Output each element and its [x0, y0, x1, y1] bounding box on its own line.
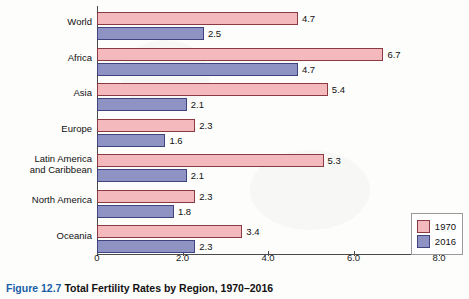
legend-label-2016: 2016	[435, 236, 456, 247]
figure-number: Figure 12.7	[6, 282, 61, 294]
legend-item-1970: 1970	[417, 220, 456, 233]
bar-value-label: 2.3	[199, 190, 212, 203]
bar-value-label: 5.4	[332, 83, 345, 96]
legend-item-2016: 2016	[417, 235, 456, 248]
plot-area: 4.72.56.74.75.42.12.31.65.32.12.31.83.42…	[97, 6, 439, 255]
bar-value-label: 1.8	[178, 205, 191, 218]
bar-group: 4.72.5	[97, 6, 439, 42]
category-label: North America	[6, 194, 92, 205]
bar-1970	[97, 154, 324, 167]
bar-value-label: 2.3	[199, 119, 212, 132]
legend-label-1970: 1970	[435, 221, 456, 232]
bar-group: 2.31.8	[97, 184, 439, 220]
figure-title: Total Fertility Rates by Region, 1970–20…	[64, 282, 273, 294]
bar-1970	[97, 83, 328, 96]
category-label: Europe	[6, 123, 92, 134]
bar-1970	[97, 48, 383, 61]
bar-value-label: 4.7	[302, 12, 315, 25]
x-tick-label: 0	[94, 252, 99, 263]
figure-caption: Figure 12.7 Total Fertility Rates by Reg…	[6, 282, 273, 294]
category-label: Oceania	[6, 230, 92, 241]
bar-value-label: 1.6	[169, 134, 182, 147]
category-label: World	[6, 16, 92, 27]
category-label: Africa	[6, 52, 92, 63]
bar-value-label: 5.3	[328, 154, 341, 167]
bar-group: 6.74.7	[97, 42, 439, 78]
x-tick-label: 2.0	[176, 252, 189, 263]
bar-1970	[97, 225, 242, 238]
bar-2016	[97, 134, 165, 147]
category-label: Asia	[6, 87, 92, 98]
bar-group: 3.42.3	[97, 219, 439, 255]
x-tick-label: 6.0	[347, 252, 360, 263]
bar-2016	[97, 98, 187, 111]
bar-1970	[97, 190, 195, 203]
legend-swatch-1970	[417, 220, 430, 233]
bar-2016	[97, 63, 298, 76]
figure-container: WorldAfricaAsiaEuropeLatin Americaand Ca…	[0, 0, 469, 299]
bar-value-label: 6.7	[387, 48, 400, 61]
bar-2016	[97, 27, 204, 40]
bar-group: 2.31.6	[97, 113, 439, 149]
legend-swatch-2016	[417, 235, 430, 248]
legend: 1970 2016	[411, 213, 463, 255]
bar-value-label: 2.5	[208, 27, 221, 40]
bar-value-label: 3.4	[246, 225, 259, 238]
x-tick-label: 4.0	[261, 252, 274, 263]
category-label: Latin Americaand Caribbean	[6, 153, 92, 175]
bar-2016	[97, 169, 187, 182]
bar-value-label: 2.1	[191, 98, 204, 111]
bar-value-label: 4.7	[302, 63, 315, 76]
bar-2016	[97, 205, 174, 218]
bar-1970	[97, 119, 195, 132]
bar-value-label: 2.3	[199, 240, 212, 253]
bar-group: 5.42.1	[97, 77, 439, 113]
bar-group: 5.32.1	[97, 148, 439, 184]
bar-value-label: 2.1	[191, 169, 204, 182]
bar-1970	[97, 12, 298, 25]
